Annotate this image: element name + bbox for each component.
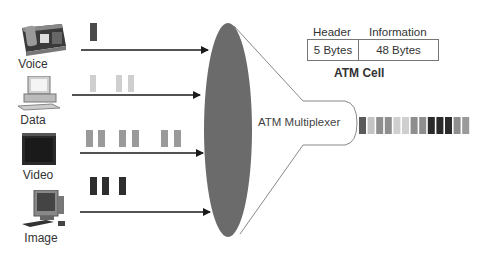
cell-video [132,130,139,147]
source-label-image: Image [11,231,71,245]
output-cell [359,117,366,134]
header-label: Header [313,26,351,38]
information-size-cell: 48 Bytes [359,40,438,60]
source-label-video: Video [8,168,68,182]
multiplexer-label: ATM Multiplexer [258,116,340,128]
output-cell [436,117,443,134]
output-cell [385,117,392,134]
multiplexer-ellipse [204,23,252,237]
cell-video [86,130,93,147]
source-label-data: Data [3,113,63,127]
cell-data [128,75,134,92]
source-label-voice: Voice [3,57,63,71]
output-cell [402,117,409,134]
desktop-computer-icon [16,76,64,112]
cell-image [102,177,109,195]
information-label: Information [369,26,427,38]
output-cell [454,117,461,134]
output-cell [445,117,452,134]
cell-video [161,130,168,147]
output-cell [393,117,400,134]
cell-video [174,130,181,147]
video-monitor-icon [22,133,56,165]
header-size-cell: 5 Bytes [308,40,359,60]
workstation-icon [20,190,72,228]
cell-data [90,75,96,92]
output-cell [419,117,426,134]
cell-image [90,177,97,195]
output-cell [411,117,418,134]
atm-cell-table: 5 Bytes 48 Bytes [307,39,439,61]
output-cell [368,117,375,134]
cell-video [98,130,105,147]
output-cell [376,117,383,134]
telephone-icon [16,22,68,58]
cell-voice [90,23,97,41]
output-cell [462,117,469,134]
cell-image [119,177,126,195]
cell-data [116,75,122,92]
atm-cell-title: ATM Cell [334,66,384,80]
output-cell [428,117,435,134]
cell-video [119,130,126,147]
